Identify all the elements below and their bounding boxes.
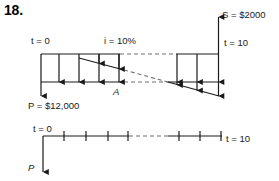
lower-timeline-group bbox=[43, 131, 222, 172]
label-present-worth-upper: P = $12,000 bbox=[28, 101, 79, 111]
label-t-end-bottom: t = 10 bbox=[226, 134, 250, 144]
label-future-sum: S = $2000 bbox=[222, 10, 266, 20]
cash-flow-diagram-graphic bbox=[0, 0, 279, 181]
label-t-start-top: t = 0 bbox=[31, 36, 50, 46]
label-annuity: A bbox=[113, 87, 119, 97]
uniform-series-arrows-right bbox=[177, 54, 219, 82]
gradient-line-right-solid bbox=[168, 82, 219, 96]
gradient-line-left-solid bbox=[79, 58, 124, 70]
gradient-line-dashed bbox=[124, 70, 168, 82]
upper-timeline-group bbox=[41, 17, 219, 96]
label-interest-rate: i = 10% bbox=[104, 36, 136, 46]
gradient-arrows-left bbox=[99, 54, 119, 69]
uniform-series-arrows-left bbox=[59, 54, 119, 82]
label-t-end-top: t = 10 bbox=[224, 38, 248, 48]
cash-flow-diagram-page: 18. bbox=[0, 0, 279, 181]
label-t-start-bottom: t = 0 bbox=[33, 124, 52, 134]
label-present-worth-lower: P bbox=[28, 163, 34, 173]
